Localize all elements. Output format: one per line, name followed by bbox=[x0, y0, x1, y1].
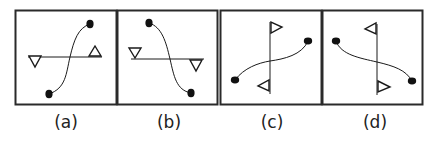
triangle-left-icon bbox=[258, 80, 269, 91]
dot-icon bbox=[187, 89, 194, 97]
panel-b-frame bbox=[118, 11, 218, 105]
panel-a-label: (a) bbox=[36, 112, 96, 132]
triangle-left-icon bbox=[365, 23, 376, 34]
panel-b-label: (b) bbox=[139, 112, 199, 132]
panel-b-curve bbox=[149, 23, 191, 93]
triangle-down-icon bbox=[29, 56, 41, 67]
panel-c bbox=[221, 11, 322, 105]
dot-icon bbox=[332, 38, 340, 45]
panel-b bbox=[118, 11, 218, 105]
panel-a-curve bbox=[49, 24, 90, 94]
panel-c-curve bbox=[235, 41, 308, 80]
panel-d-label: (d) bbox=[345, 112, 405, 132]
panel-d bbox=[323, 11, 423, 105]
dot-icon bbox=[86, 20, 93, 28]
panel-a bbox=[16, 11, 117, 105]
dot-icon bbox=[45, 90, 52, 98]
triangle-up-icon bbox=[89, 46, 101, 56]
triangle-right-icon bbox=[378, 81, 390, 92]
triangle-down-icon bbox=[129, 48, 141, 58]
dot-icon bbox=[231, 77, 239, 84]
triangle-down-icon bbox=[190, 60, 202, 71]
dot-icon bbox=[408, 78, 416, 85]
panel-c-label: (c) bbox=[242, 112, 302, 132]
dot-icon bbox=[304, 38, 312, 45]
triangle-right-icon bbox=[271, 22, 282, 33]
dot-icon bbox=[145, 19, 152, 27]
panel-d-curve bbox=[336, 41, 412, 81]
